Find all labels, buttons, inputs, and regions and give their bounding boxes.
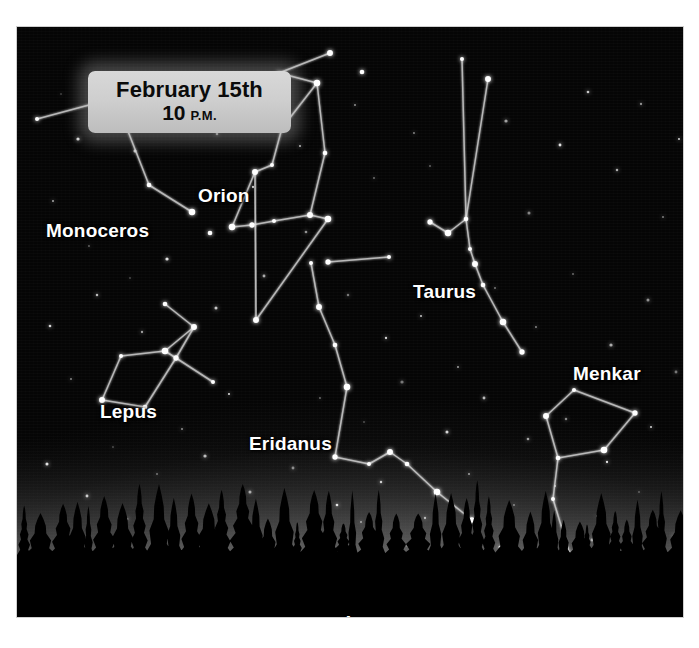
field-star [45,462,48,465]
field-star [445,430,448,433]
constellation-line-taurus [483,285,503,322]
star-orion [327,50,333,56]
constellation-line-taurus [475,264,483,285]
field-star [559,144,562,147]
constellation-line-lepus [102,356,121,400]
star-lepus [211,380,215,384]
star-menkar [572,388,576,392]
star-orion [325,216,332,223]
constellation-label-orion: Orion [198,185,250,207]
constellation-label-menkar: Menkar [573,363,641,385]
field-star [587,91,590,94]
constellation-line-orion [328,257,389,262]
sky-chart-panel: February 15th 10P.M. Monoceros Orion Tau… [17,27,683,617]
constellation-line-eridanus [319,307,335,345]
field-star [413,132,415,134]
horizon-direction-label: Southwest [298,612,406,617]
star-lepus [191,324,197,330]
constellation-line-orion [279,53,330,73]
constellation-line-lepus [165,304,194,327]
constellation-line-lepus [165,327,194,351]
star-eridanus [316,304,322,310]
field-star [216,133,219,136]
star-menkar [556,456,561,461]
star-monoceros [35,117,39,121]
star-monoceros [147,183,152,188]
field-star [504,119,507,122]
field-star [483,397,486,400]
star-orion [387,255,391,259]
star-orion [270,163,274,167]
field-star [49,325,52,328]
constellation-line-lepus [121,351,165,356]
star-orion [229,224,236,231]
star-orion [249,222,254,227]
constellation-label-eridanus: Eridanus [249,433,332,455]
star-eridanus [332,454,337,459]
field-star [420,315,422,317]
constellation-line-lepus [145,358,176,407]
star-orion [325,259,330,264]
field-star [347,294,350,297]
field-star [616,169,619,172]
star-taurus [468,247,472,251]
field-star [662,216,664,218]
constellation-line-eridanus [311,263,319,307]
constellation-label-lepus: Lepus [100,401,157,423]
star-taurus [519,349,524,354]
star-taurus [485,76,491,82]
star-lepus [173,355,178,360]
field-star [513,504,515,506]
field-star [360,521,362,523]
star-chart-page: February 15th 10P.M. Monoceros Orion Tau… [0,0,699,648]
constellation-label-taurus: Taurus [413,281,476,303]
field-star [112,446,114,448]
field-star [457,366,459,368]
field-star [52,200,54,202]
star-taurus [472,261,478,267]
field-star [535,326,537,328]
field-star [263,275,266,278]
field-star [156,473,157,474]
field-star [76,137,79,140]
star-taurus [500,319,507,326]
field-star [527,211,530,214]
star-orion [323,151,328,156]
time-text: 10P.M. [162,101,217,125]
field-star [385,337,387,339]
constellation-line-orion [317,83,325,153]
field-star [88,245,90,247]
field-star [96,294,99,297]
field-star [214,306,217,309]
field-star [565,418,568,421]
field-star [609,343,612,346]
star-taurus [464,217,469,222]
constellation-line-lepus [176,358,213,382]
field-star [675,371,678,374]
star-taurus [460,57,464,61]
star-eridanus [333,343,338,348]
field-star [424,517,426,519]
star-taurus [445,230,452,237]
star-eridanus [309,261,313,265]
constellation-line-eridanus [335,345,347,387]
field-star [650,426,652,428]
constellation-line-orion [310,153,325,215]
star-taurus [427,219,432,224]
constellation-line-menkar [574,390,635,413]
field-star [305,231,308,234]
hour-text: 10 [162,101,185,125]
constellation-line-taurus [503,322,522,352]
constellation-line-taurus [462,59,466,219]
date-time-callout: February 15th 10P.M. [88,71,291,133]
star-lepus [119,354,123,358]
constellation-label-monoceros: Monoceros [46,220,149,242]
star-eridanus [387,449,393,455]
star-menkar [543,413,549,419]
field-star [380,481,383,484]
field-star [527,438,530,441]
field-star [678,138,680,140]
star-orion [307,212,313,218]
field-star [429,165,430,166]
star-orion [360,70,365,75]
